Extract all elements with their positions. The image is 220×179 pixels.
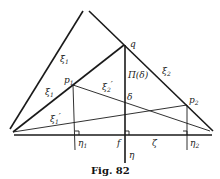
line-xi1-prime: [13, 105, 187, 132]
label-xi2: ξ2: [162, 66, 171, 77]
label-xi1: ξ1: [45, 87, 54, 98]
label-p1: p1: [64, 75, 74, 86]
label-delta: δ: [127, 92, 132, 102]
label-q: q: [130, 39, 136, 49]
label-pi-delta: Π(δ): [127, 70, 149, 80]
line-xi1-bar: [10, 11, 83, 129]
label-eta1: η1: [78, 138, 87, 149]
label-xi2-prime: ξ2′: [102, 80, 113, 93]
line-xi2: [89, 11, 213, 131]
line-eta1: [73, 85, 75, 150]
figure-caption: Fig. 82: [91, 165, 130, 176]
label-xi1-bar: ξ̄1: [60, 54, 69, 65]
label-zeta: ζ: [152, 138, 158, 148]
label-xi1-prime: ξ1′: [50, 112, 61, 125]
label-p2: p2: [189, 95, 199, 106]
label-eta2: η2: [190, 138, 199, 149]
diagram-canvas: ξ̄1 ξ1 ξ2 ξ1′ ξ2′ q p1 p2 Π(δ) δ f ζ η η…: [0, 0, 220, 179]
label-f: f: [116, 138, 122, 148]
label-eta: η: [129, 150, 135, 160]
